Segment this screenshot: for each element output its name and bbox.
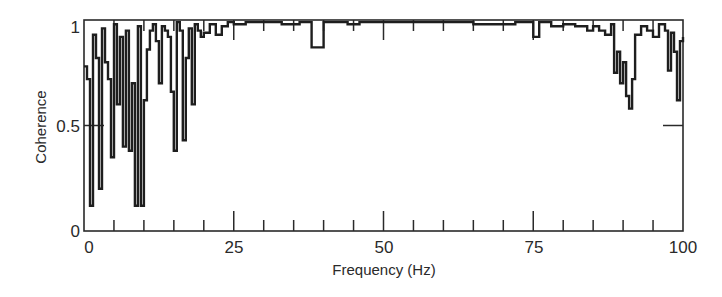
coherence-chart: 0 25 50 75 100 0 0.5 1 Frequency (Hz) Co… (0, 0, 722, 297)
x-tick-label-100: 100 (669, 238, 697, 257)
x-tick-label-75: 75 (525, 238, 544, 257)
plot-area (84, 20, 683, 231)
y-tick-labels: 0 0.5 1 (56, 18, 80, 241)
x-tick-label-0: 0 (84, 238, 93, 257)
y-axis-title: Coherence (32, 90, 49, 163)
y-tick-label-0: 0 (71, 222, 80, 241)
x-tick-label-50: 50 (375, 238, 394, 257)
y-tick-label-0.5: 0.5 (56, 117, 80, 136)
x-axis-title: Frequency (Hz) (332, 261, 435, 278)
x-tick-labels: 0 25 50 75 100 (84, 238, 697, 257)
x-tick-label-25: 25 (225, 238, 244, 257)
coherence-line (84, 22, 683, 206)
y-tick-label-1: 1 (71, 18, 80, 37)
